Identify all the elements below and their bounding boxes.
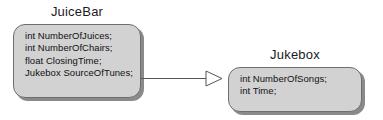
attribute-item: int NumberOfChairs;	[25, 42, 134, 54]
attribute-item: int Time;	[240, 85, 355, 97]
hollow-triangle-arrowhead-icon	[206, 71, 222, 86]
attribute-list-juicebar: int NumberOfJuices; int NumberOfChairs; …	[25, 30, 134, 80]
attribute-item: int NumberOfSongs;	[240, 73, 355, 85]
uml-class-diagram: JuiceBar int NumberOfJuices; int NumberO…	[0, 0, 383, 120]
attribute-item: float ClosingTime;	[25, 55, 134, 67]
class-title-jukebox: Jukebox	[228, 47, 362, 62]
attribute-item: int NumberOfJuices;	[25, 30, 134, 42]
class-box-juicebar[interactable]: int NumberOfJuices; int NumberOfChairs; …	[13, 24, 141, 98]
attribute-list-jukebox: int NumberOfSongs; int Time;	[240, 73, 355, 98]
attribute-item: Jukebox SourceOfTunes;	[25, 67, 134, 79]
class-title-juicebar: JuiceBar	[13, 4, 141, 19]
class-box-jukebox[interactable]: int NumberOfSongs; int Time;	[228, 67, 362, 112]
